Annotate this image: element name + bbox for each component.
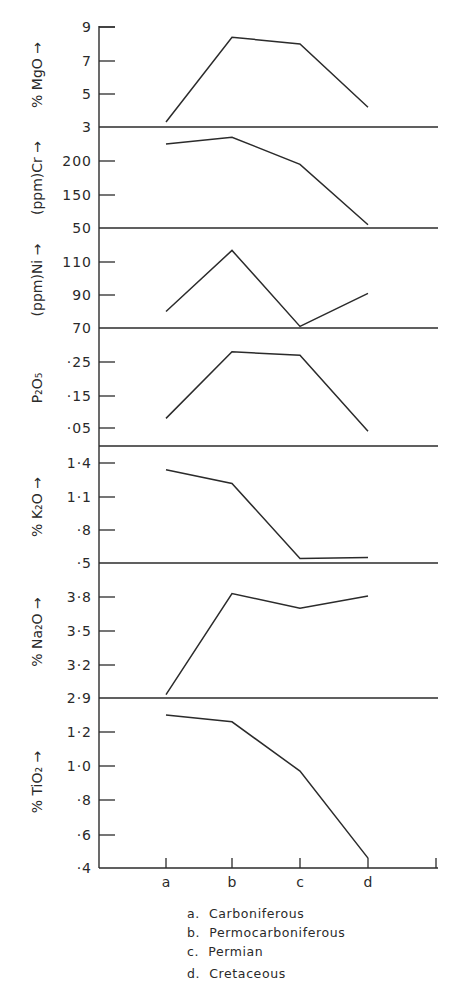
y-tick-label: 3·2 [67,657,92,673]
y-tick-label: ·8 [77,522,92,538]
legend-item-b: b. Permocarboniferous [187,923,345,942]
x-tick-label: b [228,874,237,890]
y-axis-label: % Na₂O → [29,597,45,667]
legend-item-c: c. Permian [187,942,345,961]
stacked-line-chart: 9753% MgO →20015050(ppm)Cr →1109070(ppm)… [0,0,450,999]
y-axis-label: % MgO → [29,42,45,108]
panel-5: 3·83·53·22·9% Na₂O → [29,589,438,706]
panel-6: 1·21·0·8·6·4% TiO₂ → [29,715,438,876]
data-line [166,470,368,559]
y-tick-label: 2·9 [67,690,92,706]
y-tick-label: ·05 [67,420,92,436]
data-line [166,37,368,122]
y-tick-label: ·15 [67,388,92,404]
y-tick-label: 7 [82,53,92,69]
y-axis-label: % K₂O → [29,477,45,537]
y-tick-label: ·4 [77,860,92,876]
y-tick-label: 50 [72,220,92,236]
data-line [166,594,368,695]
x-tick-label: d [364,874,373,890]
panel-3: ·25·15·05P₂O₅ [29,352,438,446]
y-tick-label: 110 [62,254,92,270]
panel-0: 9753% MgO → [29,19,438,135]
x-tick-label: c [296,874,304,890]
panel-2: 1109070(ppm)Ni → [29,243,438,336]
y-tick-label: ·6 [77,827,92,843]
y-tick-label: 1·0 [67,758,92,774]
y-axis-label: P₂O₅ [29,373,45,404]
y-tick-label: 3·8 [67,589,92,605]
y-tick-label: 70 [72,320,92,336]
y-tick-label: ·25 [67,354,92,370]
y-tick-label: 150 [62,187,92,203]
y-tick-label: 1·2 [67,724,92,740]
y-tick-label: 1·4 [67,455,92,471]
data-line [166,715,368,858]
legend-item-a: a. Carboniferous [187,904,345,923]
x-axis: abcd [162,858,436,890]
y-axis-label: (ppm)Ni → [29,243,45,316]
y-tick-label: ·5 [77,555,92,571]
y-tick-label: 3 [82,119,92,135]
data-line [166,137,368,225]
y-axis-label: (ppm)Cr → [29,141,45,215]
y-axis-label: % TiO₂ → [29,750,45,813]
y-tick-label: 9 [82,19,92,35]
x-tick-label: a [162,874,171,890]
y-tick-label: 90 [72,287,92,303]
y-tick-label: 3·5 [67,623,92,639]
panel-1: 20015050(ppm)Cr → [29,137,438,236]
legend-item-d: d. Cretaceous [187,964,345,983]
panels: 9753% MgO →20015050(ppm)Cr →1109070(ppm)… [29,19,438,876]
data-line [166,250,368,326]
panel-4: 1·41·1·8·5% K₂O → [29,455,438,571]
y-tick-label: 200 [62,153,92,169]
legend: a. Carboniferous b. Permocarboniferous c… [187,904,345,983]
y-tick-label: ·8 [77,792,92,808]
y-tick-label: 1·1 [67,489,92,505]
data-line [166,352,368,431]
y-tick-label: 5 [82,86,92,102]
